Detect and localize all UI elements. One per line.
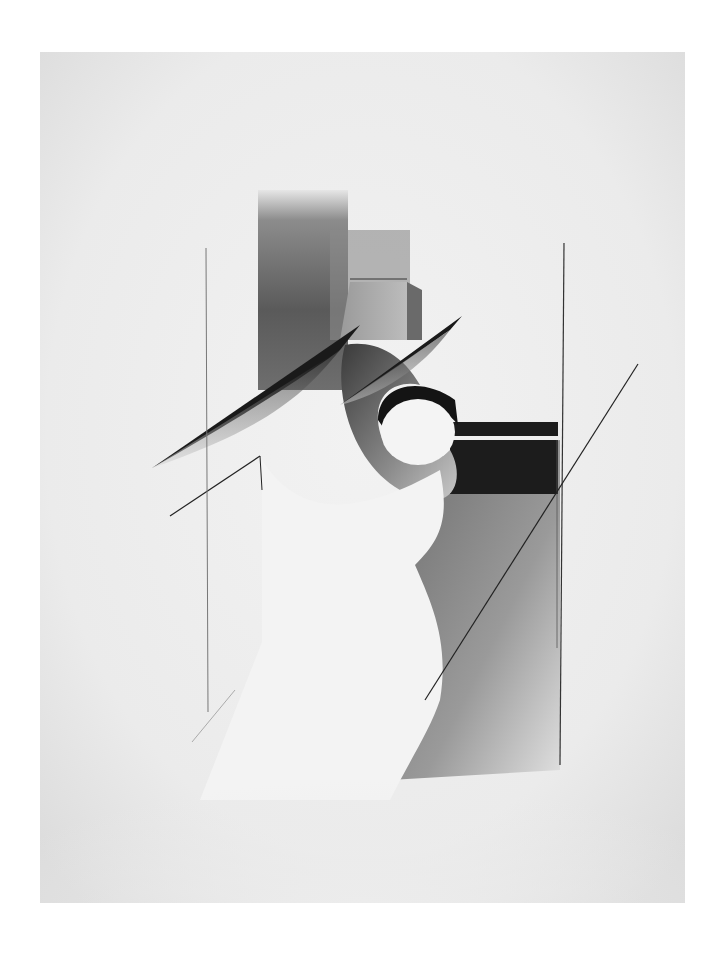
block-side bbox=[407, 282, 422, 340]
rectangular-block bbox=[340, 282, 407, 340]
bottom-fade bbox=[40, 700, 685, 903]
white-ellipse-opening bbox=[381, 399, 455, 465]
horizontal-black-bar-top bbox=[450, 422, 558, 436]
artwork-canvas bbox=[0, 0, 723, 955]
horizontal-black-bar bbox=[450, 440, 558, 494]
